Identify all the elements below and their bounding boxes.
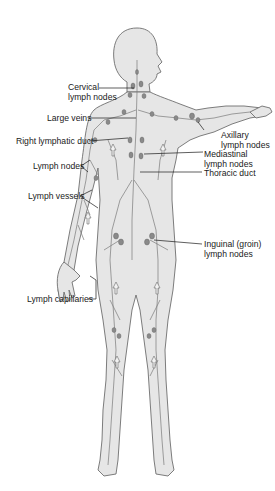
- label-thoracic-duct: Thoracic duct: [204, 168, 256, 178]
- label-lymph-nodes: Lymph nodes: [33, 161, 84, 171]
- label-cervical-lymph-nodes: Cervical lymph nodes: [68, 82, 117, 102]
- label-cervical-line1: Cervical: [68, 82, 117, 92]
- label-cervical-line2: lymph nodes: [68, 92, 117, 102]
- label-right-lymphatic-duct: Right lymphatic duct: [16, 136, 93, 146]
- label-axillary-lymph-nodes: Axillary lymph nodes: [221, 130, 270, 150]
- label-axillary-line1: Axillary: [221, 130, 270, 140]
- label-lymph-vessels: Lymph vessels: [28, 191, 85, 201]
- label-inguinal-line2: lymph nodes: [204, 249, 261, 259]
- label-inguinal-lymph-nodes: Inguinal (groin) lymph nodes: [204, 239, 261, 259]
- label-mediastinal-line1: Mediastinal: [204, 149, 253, 159]
- label-inguinal-line1: Inguinal (groin): [204, 239, 261, 249]
- label-lymph-capillaries: Lymph capillaries: [27, 294, 93, 304]
- label-mediastinal-lymph-nodes: Mediastinal lymph nodes: [204, 149, 253, 169]
- label-large-veins: Large veins: [47, 113, 91, 123]
